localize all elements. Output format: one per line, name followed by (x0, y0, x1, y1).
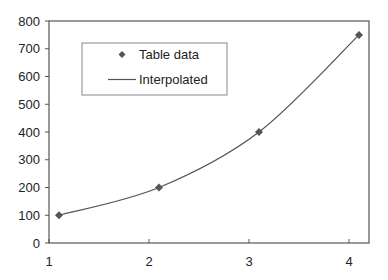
legend-label-table-data: Table data (139, 47, 200, 62)
y-tick-label: 500 (18, 97, 40, 112)
y-tick-label: 0 (33, 236, 40, 251)
data-point-diamond-icon (155, 184, 163, 192)
x-tick-label: 4 (345, 254, 352, 269)
y-tick-label: 400 (18, 125, 40, 140)
y-tick-label: 300 (18, 152, 40, 167)
x-tick-label: 3 (245, 254, 252, 269)
x-tick-label: 1 (45, 254, 52, 269)
data-point-diamond-icon (55, 211, 63, 219)
y-tick-label: 200 (18, 180, 40, 195)
legend: Table data Interpolated (82, 43, 227, 95)
chart: 0100200300400500600700800 1234 Table dat… (0, 0, 388, 280)
legend-label-interpolated: Interpolated (139, 72, 208, 87)
y-tick-label: 700 (18, 41, 40, 56)
y-tick-label: 600 (18, 69, 40, 84)
y-tick-label: 100 (18, 208, 40, 223)
y-tick-label: 800 (18, 14, 40, 29)
y-axis: 0100200300400500600700800 (18, 14, 49, 251)
x-tick-label: 2 (145, 254, 152, 269)
